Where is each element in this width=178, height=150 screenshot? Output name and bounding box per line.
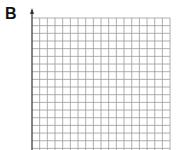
grid-lines: [32, 18, 170, 150]
y-axis-arrow-icon: [30, 8, 34, 14]
blank-graph-grid: [0, 0, 178, 150]
